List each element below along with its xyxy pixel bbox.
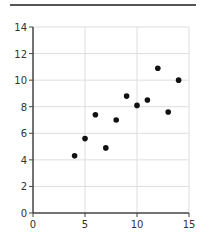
x-axis-ticks: 051015 xyxy=(30,213,196,230)
x-tick-label: 0 xyxy=(30,219,36,230)
data-point xyxy=(103,145,109,151)
data-point xyxy=(155,65,161,71)
x-tick-label: 5 xyxy=(82,219,88,230)
data-point xyxy=(113,117,119,123)
data-point xyxy=(72,153,78,159)
x-tick-label: 15 xyxy=(183,219,196,230)
data-points xyxy=(72,65,182,158)
y-tick-label: 8 xyxy=(21,102,27,113)
x-tick-label: 10 xyxy=(131,219,144,230)
axes xyxy=(33,27,189,213)
y-axis-ticks: 02468101214 xyxy=(14,22,33,219)
data-point xyxy=(93,112,99,118)
data-point xyxy=(134,103,140,109)
y-tick-label: 0 xyxy=(21,208,27,219)
data-point xyxy=(176,77,182,83)
y-tick-label: 14 xyxy=(14,22,27,33)
y-tick-label: 4 xyxy=(21,155,27,166)
data-point xyxy=(124,93,130,99)
y-tick-label: 12 xyxy=(14,49,27,60)
y-tick-label: 10 xyxy=(14,75,27,86)
gridlines xyxy=(33,27,189,213)
data-point xyxy=(145,97,151,103)
data-point xyxy=(82,136,88,142)
scatter-chart: 02468101214 051015 xyxy=(0,0,203,240)
y-tick-label: 6 xyxy=(21,128,27,139)
data-point xyxy=(165,109,171,115)
y-tick-label: 2 xyxy=(21,181,27,192)
